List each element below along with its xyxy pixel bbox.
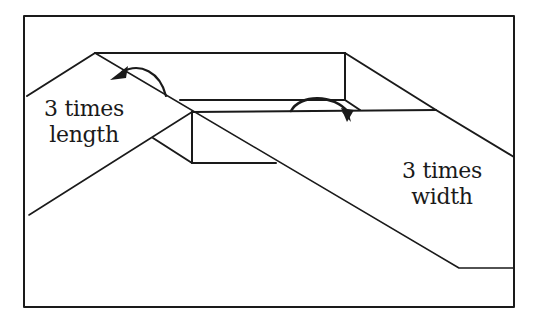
label-length-line2: length [34, 122, 134, 148]
label-three-times-length: 3 times length [34, 96, 134, 148]
label-width-line2: width [392, 184, 492, 210]
front-box-inner-slope [153, 138, 192, 163]
label-width-line1: 3 times [392, 158, 492, 184]
inner-strip-bottom [192, 110, 436, 112]
label-three-times-width: 3 times width [392, 158, 492, 210]
left-slope-line [27, 53, 95, 96]
right-slope-line [345, 53, 514, 157]
label-length-line1: 3 times [34, 96, 134, 122]
